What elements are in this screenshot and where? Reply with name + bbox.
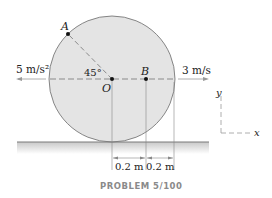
- dimension-left: [113, 157, 145, 160]
- label-B: B: [140, 65, 149, 78]
- axis-x-label: x: [254, 127, 260, 138]
- dimension-right: [147, 157, 173, 160]
- angle-label: 45°: [84, 67, 102, 78]
- axis-y-label: y: [215, 87, 222, 98]
- acceleration-label: 5 m/s²: [16, 63, 49, 75]
- velocity-arrow: [178, 77, 209, 81]
- label-O: O: [102, 82, 111, 95]
- point-O-dot: [110, 77, 114, 81]
- velocity-label: 3 m/s: [182, 64, 211, 76]
- diagram-canvas: A O B 45° 5 m/s² 3 m/s y x 0.2 m 0.2 m P…: [0, 0, 272, 198]
- dimension-left-label: 0.2 m: [115, 161, 144, 172]
- ground-shading: [17, 142, 209, 154]
- acceleration-arrow: [16, 77, 46, 81]
- figure-caption: PROBLEM 5/100: [100, 181, 182, 191]
- label-A: A: [60, 20, 69, 33]
- dimension-right-label: 0.2 m: [146, 161, 175, 172]
- coordinate-axes: [221, 96, 251, 133]
